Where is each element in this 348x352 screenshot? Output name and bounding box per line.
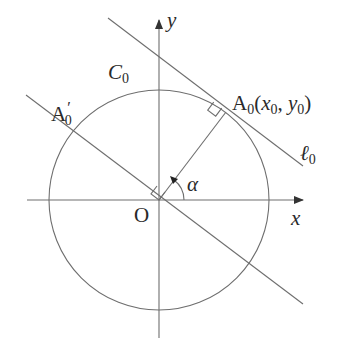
angle-alpha-label: α — [187, 174, 198, 195]
diagram-svg — [0, 0, 348, 352]
circle-label: C0 — [108, 62, 129, 86]
point-a0-letter: A — [232, 91, 247, 115]
point-a0-x-sub: 0 — [271, 102, 278, 117]
tangent-line-sub: 0 — [309, 152, 316, 167]
tangent-line-label: ℓ0 — [300, 143, 316, 167]
point-a0-close-paren: ) — [304, 91, 311, 115]
point-a0-y: y — [288, 91, 297, 115]
angle-alpha-arc — [174, 180, 184, 200]
point-a0-prime-label: A′0 — [51, 100, 72, 128]
y-axis-label: y — [167, 10, 176, 31]
point-a0p-sub: 0 — [65, 113, 72, 128]
diagram-canvas: y x O C0 A0(x0, y0) A′0 ℓ0 α — [0, 0, 348, 352]
origin-label: O — [134, 205, 149, 226]
x-axis-label: x — [291, 208, 300, 229]
circle-label-sub: 0 — [122, 71, 129, 86]
point-a0-x: x — [261, 91, 270, 115]
right-angle-marker-a0 — [208, 102, 222, 116]
point-a0p-letter: A — [51, 102, 66, 126]
tangent-line-letter: ℓ — [300, 141, 309, 165]
point-a0-comma: , — [278, 91, 289, 115]
circle-label-main: C — [108, 60, 122, 84]
point-a0-label: A0(x0, y0) — [232, 93, 311, 117]
